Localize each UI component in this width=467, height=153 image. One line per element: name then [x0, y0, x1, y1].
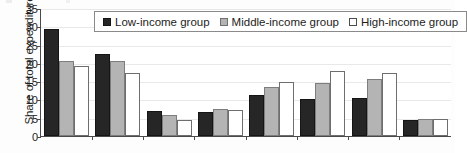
bar-middle: [418, 119, 433, 136]
x-axis-tick-mark: [92, 136, 93, 140]
y-axis-tick-mark: [37, 137, 41, 138]
filled-gray-square-icon: [220, 18, 228, 26]
empty-white-square-icon: [349, 18, 357, 26]
bar-middle: [315, 83, 330, 136]
bar-low: [198, 112, 213, 136]
bar-low: [147, 111, 162, 136]
x-axis-tick-mark: [399, 136, 400, 140]
legend-item[interactable]: Low-income group: [103, 16, 210, 28]
legend-item[interactable]: High-income group: [349, 16, 458, 28]
bar-high: [433, 119, 448, 136]
x-axis-tick-mark: [143, 136, 144, 140]
legend-item-label: Middle-income group: [232, 16, 339, 28]
y-axis-tick-label: 0: [16, 132, 38, 143]
bar-high: [382, 73, 397, 136]
bar-middle: [264, 87, 279, 136]
y-axis-tick-label: 20: [16, 58, 38, 69]
bar-low: [403, 120, 418, 136]
bar-middle: [213, 109, 228, 136]
y-axis-tick-labels: 05101520253035: [16, 0, 38, 153]
y-axis-tick-label: 30: [16, 22, 38, 33]
bar-middle: [59, 61, 74, 136]
bar-low: [300, 99, 315, 136]
legend-item-label: Low-income group: [115, 16, 210, 28]
bar-middle: [110, 61, 125, 136]
bar-high: [279, 82, 294, 136]
bar-low: [249, 95, 264, 136]
legend-item-label: High-income group: [361, 16, 458, 28]
bar-low: [352, 98, 367, 136]
bar-high: [177, 120, 192, 136]
legend-item[interactable]: Middle-income group: [220, 16, 339, 28]
x-axis-tick-mark: [348, 136, 349, 140]
x-axis-tick-mark: [297, 136, 298, 140]
y-axis-tick-label: 10: [16, 95, 38, 106]
chart-legend: Low-income groupMiddle-income groupHigh-…: [94, 11, 467, 32]
bar-high: [125, 73, 140, 136]
y-axis-tick-label: 5: [16, 113, 38, 124]
bar-high: [228, 110, 243, 136]
y-axis-tick-label: 25: [16, 40, 38, 51]
y-axis-tick-label: 15: [16, 77, 38, 88]
bar-low: [95, 54, 110, 136]
bar-high: [330, 71, 345, 136]
bar-middle: [162, 115, 177, 136]
bar-middle: [367, 79, 382, 136]
bar-low: [44, 29, 59, 136]
scan-artifact: [6, 0, 306, 3]
x-axis-tick-mark: [246, 136, 247, 140]
bar-high: [74, 66, 89, 136]
filled-black-square-icon: [103, 18, 111, 26]
bar-group: [41, 9, 92, 136]
y-axis-tick-label: 35: [16, 4, 38, 15]
x-axis-tick-mark: [194, 136, 195, 140]
